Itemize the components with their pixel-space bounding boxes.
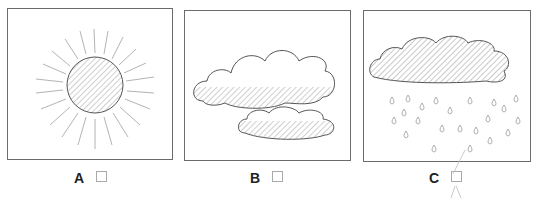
pencil-check-mark	[447, 150, 487, 210]
panel-rainy	[363, 10, 531, 162]
option-b-label: B	[250, 170, 260, 186]
raindrops	[390, 95, 520, 152]
panel-sunny	[7, 8, 173, 160]
option-c-label: C	[429, 170, 439, 186]
option-b-checkbox[interactable]	[272, 171, 283, 182]
panel-cloudy	[184, 10, 351, 161]
option-a-checkbox[interactable]	[96, 171, 107, 182]
option-a-label: A	[74, 170, 84, 186]
sun-icon	[8, 9, 174, 161]
rain-cloud-icon	[364, 11, 532, 163]
option-c-checkbox[interactable]	[451, 171, 462, 182]
cloud-icon	[185, 11, 352, 162]
